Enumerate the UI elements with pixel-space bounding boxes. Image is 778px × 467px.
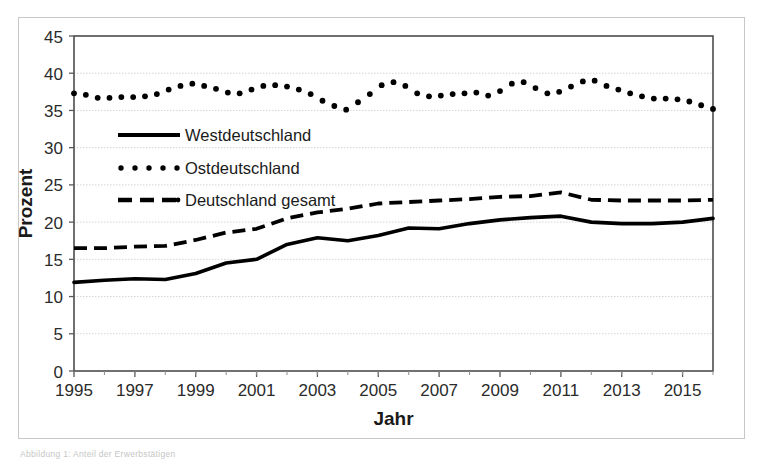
data-dot: [710, 106, 716, 112]
x-tick-label: 2005: [359, 381, 397, 400]
y-axis-tick-labels: 051015202530354045: [44, 28, 63, 382]
data-dot: [462, 90, 468, 96]
data-dot: [178, 83, 184, 89]
x-tick-label: 1997: [116, 381, 154, 400]
y-axis-label: Prozent: [15, 168, 36, 238]
y-tick-label: 45: [44, 28, 63, 47]
data-dot: [331, 103, 337, 109]
data-dot: [556, 89, 562, 95]
data-dot: [296, 87, 302, 93]
y-tick-label: 15: [44, 251, 63, 270]
x-tick-label: 2009: [481, 381, 519, 400]
data-series-group: [71, 78, 716, 283]
legend-label: Ostdeutschland: [185, 159, 300, 177]
series-westdeutschland: [74, 216, 713, 282]
data-dot: [414, 90, 420, 96]
x-tick-label: 2013: [603, 381, 641, 400]
data-dot: [284, 84, 290, 90]
data-dot: [95, 95, 101, 101]
y-tick-label: 0: [54, 363, 63, 382]
data-dot: [213, 86, 219, 92]
legend-swatch-dot: [146, 165, 151, 170]
data-dot: [343, 107, 349, 113]
data-dot: [509, 81, 515, 87]
x-tick-label: 2011: [543, 381, 580, 400]
data-dot: [249, 87, 255, 93]
data-dot: [225, 90, 231, 96]
data-dot: [130, 94, 136, 100]
data-dot: [450, 91, 456, 97]
data-dot: [485, 93, 491, 99]
data-dot: [379, 82, 385, 88]
data-dot: [663, 96, 669, 102]
data-dot: [615, 87, 621, 93]
data-dot: [580, 79, 586, 85]
data-dot: [533, 85, 539, 91]
data-dot: [107, 95, 113, 101]
legend-swatch-dot: [174, 165, 179, 170]
data-dot: [189, 81, 195, 87]
x-tick-label: 2007: [420, 381, 458, 400]
data-dot: [568, 84, 574, 90]
data-dot: [308, 91, 314, 97]
x-tick-label: 2015: [664, 381, 702, 400]
legend-swatch-dot: [118, 165, 123, 170]
data-dot: [355, 99, 361, 105]
series-ostdeutschland: [71, 78, 716, 113]
x-axis-tick-labels: 1995199719992001200320052007200920112013…: [55, 381, 701, 400]
data-dot: [391, 79, 397, 85]
data-dot: [521, 79, 527, 85]
y-tick-label: 5: [54, 325, 63, 344]
data-dot: [260, 83, 266, 89]
y-tick-label: 30: [44, 139, 63, 158]
data-dot: [83, 92, 89, 98]
data-dot: [639, 93, 645, 99]
legend-swatch-dot: [160, 165, 165, 170]
x-tick-label: 2003: [299, 381, 337, 400]
data-dot: [118, 94, 124, 100]
chart-legend: WestdeutschlandOstdeutschlandDeutschland…: [118, 126, 336, 209]
y-tick-label: 10: [44, 288, 63, 307]
data-dot: [272, 82, 278, 88]
data-dot: [438, 93, 444, 99]
data-dot: [402, 83, 408, 89]
data-dot: [592, 78, 598, 84]
x-tick-label: 1999: [177, 381, 215, 400]
x-tick-label: 2001: [238, 381, 276, 400]
data-dot: [71, 90, 77, 96]
data-dot: [651, 96, 657, 102]
data-dot: [237, 90, 243, 96]
data-dot: [142, 93, 148, 99]
data-dot: [698, 102, 704, 108]
data-dot: [473, 90, 479, 96]
data-dot: [497, 88, 503, 94]
legend-swatch-dot: [132, 165, 137, 170]
y-tick-label: 35: [44, 102, 63, 121]
data-dot: [201, 83, 207, 89]
data-dot: [686, 99, 692, 105]
data-dot: [320, 98, 326, 104]
legend-label: Westdeutschland: [185, 126, 311, 144]
figure-caption: Abbildung 1: Anteil der Erwerbstätigen: [20, 449, 760, 459]
data-dot: [544, 90, 550, 96]
y-tick-label: 25: [44, 176, 63, 195]
x-axis-label: Jahr: [373, 408, 414, 429]
data-dot: [675, 96, 681, 102]
y-tick-label: 40: [44, 65, 63, 84]
y-tick-label: 20: [44, 214, 63, 233]
data-dot: [426, 93, 432, 99]
data-dot: [627, 90, 633, 96]
legend-label: Deutschland gesamt: [185, 191, 336, 209]
data-dot: [154, 91, 160, 97]
data-dot: [367, 91, 373, 97]
figure-container: 051015202530354045 199519971999200120032…: [0, 0, 778, 467]
data-dot: [166, 87, 172, 93]
line-chart: 051015202530354045 199519971999200120032…: [0, 0, 778, 467]
data-dot: [604, 83, 610, 89]
legend-swatch-dot: [176, 198, 181, 203]
x-tick-label: 1995: [55, 381, 93, 400]
